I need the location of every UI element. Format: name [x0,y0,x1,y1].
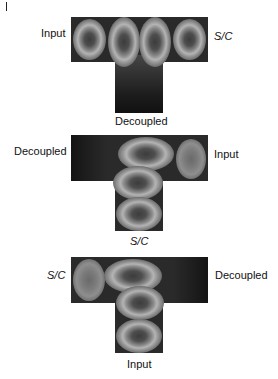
port-label-right: Decoupled [215,269,268,281]
field-mode [108,17,140,67]
field-mode [139,17,171,67]
field-mode [116,286,164,320]
port-label-left: Decoupled [14,145,67,157]
field-mode [73,19,106,60]
port-label-bottom: Input [127,358,151,370]
page-edge-mark [6,2,7,11]
port-label-left: S/C [47,269,65,281]
field-mode [118,137,174,171]
field-mode [113,166,163,200]
port-label-bottom: Decoupled [115,115,168,127]
port-label-right: S/C [214,30,232,42]
field-mode [116,319,162,353]
field-mode [176,139,206,179]
field-mode [173,19,206,60]
field-mode [73,259,105,301]
port-label-bottom: S/C [130,235,148,247]
port-label-left: Input [41,27,65,39]
port-label-right: Input [214,148,238,160]
field-mode [116,197,162,231]
